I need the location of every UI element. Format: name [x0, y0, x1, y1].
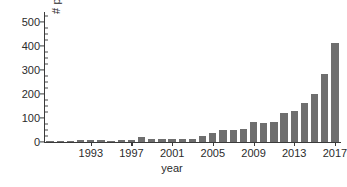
- y-tick-mark-minor: [45, 123, 48, 124]
- x-axis-line: [44, 142, 341, 143]
- y-tick-mark-minor: [45, 75, 48, 76]
- x-tick-label: 2001: [160, 147, 184, 159]
- y-tick-mark: [40, 45, 45, 46]
- y-tick-mark-minor: [45, 15, 48, 16]
- x-tick-label: 2017: [323, 147, 347, 159]
- x-tick-mark: [335, 142, 336, 146]
- bar: [240, 129, 247, 142]
- y-tick-mark-minor: [45, 105, 48, 106]
- y-tick-mark-minor: [45, 87, 48, 88]
- y-tick-label: 200: [22, 88, 40, 100]
- y-tick-label: 400: [22, 40, 40, 52]
- y-axis-tick-labels: 0100200300400500: [0, 0, 44, 187]
- y-tick-mark-minor: [45, 63, 48, 64]
- x-tick-mark: [254, 142, 255, 146]
- y-tick-mark-minor: [45, 135, 48, 136]
- x-tick-mark: [294, 142, 295, 146]
- y-tick-label: 500: [22, 16, 40, 28]
- y-tick-mark: [40, 117, 45, 118]
- bar: [250, 122, 257, 142]
- x-tick-mark: [91, 142, 92, 146]
- bar: [209, 133, 216, 142]
- y-tick-mark-minor: [45, 33, 48, 34]
- x-tick-mark: [213, 142, 214, 146]
- bar: [270, 122, 277, 142]
- plot-area: [44, 12, 341, 142]
- y-tick-mark-minor: [45, 129, 48, 130]
- bar: [301, 103, 308, 142]
- x-tick-mark: [172, 142, 173, 146]
- bar: [260, 123, 267, 142]
- x-tick-label: 1997: [119, 147, 143, 159]
- bar: [219, 130, 226, 142]
- y-tick-mark: [40, 69, 45, 70]
- x-tick-label: 2005: [201, 147, 225, 159]
- y-tick-mark-minor: [45, 81, 48, 82]
- y-tick-mark-minor: [45, 99, 48, 100]
- bar: [230, 130, 237, 142]
- y-tick-mark-minor: [45, 111, 48, 112]
- bar: [291, 111, 298, 142]
- y-tick-mark: [40, 141, 45, 142]
- bar: [331, 43, 338, 142]
- y-tick-mark-minor: [45, 27, 48, 28]
- bar: [280, 113, 287, 142]
- y-tick-mark-minor: [45, 57, 48, 58]
- y-tick-mark: [40, 21, 45, 22]
- y-tick-mark-minor: [45, 39, 48, 40]
- bar: [321, 74, 328, 142]
- x-axis-title: year: [0, 162, 344, 174]
- x-tick-mark: [131, 142, 132, 146]
- y-tick-mark-minor: [45, 51, 48, 52]
- bar: [311, 94, 318, 142]
- y-tick-mark: [40, 93, 45, 94]
- x-tick-label: 2009: [241, 147, 265, 159]
- y-tick-label: 100: [22, 112, 40, 124]
- x-tick-label: 1993: [79, 147, 103, 159]
- x-tick-label: 2013: [282, 147, 306, 159]
- y-tick-label: 300: [22, 64, 40, 76]
